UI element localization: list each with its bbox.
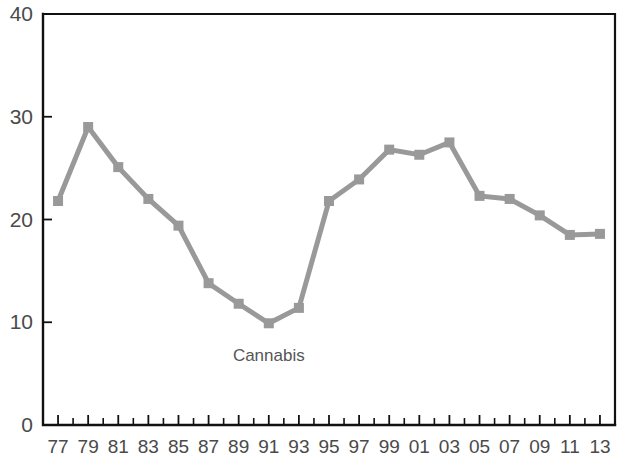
data-point-marker (234, 299, 244, 309)
data-point-marker (264, 318, 274, 328)
y-tick-label: 20 (10, 208, 33, 231)
series-line-cannabis (58, 127, 600, 323)
x-tick-label: 87 (198, 436, 219, 457)
x-tick-label: 99 (379, 436, 400, 457)
data-point-marker (444, 137, 454, 147)
data-point-marker (173, 221, 183, 231)
x-tick-label: 97 (349, 436, 370, 457)
line-chart: 010203040 777981838587899193959799010305… (0, 0, 630, 466)
x-tick-label: 77 (47, 436, 68, 457)
x-tick-label: 89 (228, 436, 249, 457)
y-tick-label: 30 (10, 105, 33, 128)
x-tick-label: 85 (168, 436, 189, 457)
series-annotation-label: Cannabis (233, 346, 305, 365)
annotation-group: Cannabis (233, 346, 305, 365)
data-point-marker (595, 229, 605, 239)
x-tick-label: 01 (409, 436, 430, 457)
x-tick-label: 83 (138, 436, 159, 457)
data-series-group (53, 122, 605, 328)
x-tick-label: 03 (439, 436, 460, 457)
data-point-marker (505, 194, 515, 204)
data-point-marker (143, 194, 153, 204)
y-tick-label: 0 (21, 413, 33, 436)
axis-lines (43, 14, 615, 425)
data-point-marker (324, 196, 334, 206)
data-point-marker (475, 191, 485, 201)
data-point-marker (354, 174, 364, 184)
data-point-marker (294, 303, 304, 313)
data-point-marker (113, 162, 123, 172)
x-axis: 77798183858789919395979901030507091113 (47, 415, 610, 457)
data-point-marker (204, 278, 214, 288)
x-tick-label: 11 (560, 436, 580, 457)
x-tick-label: 93 (288, 436, 309, 457)
x-tick-label: 95 (318, 436, 339, 457)
data-point-marker (565, 230, 575, 240)
y-axis: 010203040 (10, 2, 52, 436)
x-tick-label: 09 (529, 436, 550, 457)
x-tick-label: 05 (469, 436, 490, 457)
frame-top-right-border (43, 14, 615, 425)
data-point-marker (53, 196, 63, 206)
x-tick-label: 07 (499, 436, 520, 457)
plot-frame (43, 14, 615, 425)
x-tick-label: 79 (78, 436, 99, 457)
y-tick-label: 10 (10, 310, 33, 333)
x-tick-label: 81 (108, 436, 129, 457)
x-tick-label: 13 (589, 436, 610, 457)
data-point-marker (414, 150, 424, 160)
data-point-marker (83, 122, 93, 132)
data-point-marker (384, 145, 394, 155)
chart-container: 010203040 777981838587899193959799010305… (0, 0, 630, 466)
y-tick-label: 40 (10, 2, 33, 25)
x-tick-label: 91 (258, 436, 279, 457)
data-point-marker (535, 210, 545, 220)
